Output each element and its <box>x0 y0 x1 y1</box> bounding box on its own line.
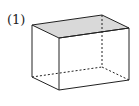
rectangular-prism-diagram <box>0 0 139 106</box>
hidden-right-bottom-edge <box>102 67 129 80</box>
front-face <box>59 28 129 90</box>
hidden-back-bottom-edge <box>32 67 102 77</box>
left-bottom-edge <box>32 77 59 90</box>
